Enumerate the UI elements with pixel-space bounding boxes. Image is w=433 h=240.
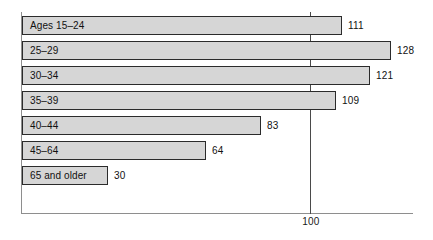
- bar-row: Ages 15–24111: [22, 16, 430, 35]
- bar-value-label: 111: [348, 16, 364, 35]
- bar-category-label: Ages 15–24: [30, 16, 84, 35]
- bar-value-label: 121: [376, 66, 393, 85]
- bar-row: 25–29128: [22, 41, 430, 60]
- bar-row: 65 and older30: [22, 166, 430, 185]
- bar-category-label: 25–29: [30, 41, 58, 60]
- bar-row: 30–34121: [22, 66, 430, 85]
- bar-value-label: 128: [397, 41, 414, 60]
- bar: [22, 41, 391, 60]
- bar-category-label: 45–64: [30, 141, 58, 160]
- bar-category-label: 30–34: [30, 66, 58, 85]
- value-axis-line: [21, 213, 413, 214]
- bar-value-label: 83: [267, 116, 279, 135]
- plot-area: 100 Ages 15–2411125–2912830–3412135–3910…: [0, 0, 433, 240]
- bar: [22, 91, 336, 110]
- bar-category-label: 40–44: [30, 116, 58, 135]
- bar-chart: 100 Ages 15–2411125–2912830–3412135–3910…: [0, 0, 433, 240]
- bar-value-label: 30: [114, 166, 126, 185]
- bar-value-label: 64: [212, 141, 224, 160]
- bar-row: 35–39109: [22, 91, 430, 110]
- bar-category-label: 35–39: [30, 91, 58, 110]
- reference-line-label: 100: [296, 216, 326, 227]
- bar: [22, 66, 370, 85]
- bar-value-label: 109: [342, 91, 359, 110]
- bar-category-label: 65 and older: [30, 166, 87, 185]
- bar-row: 45–6464: [22, 141, 430, 160]
- bar-row: 40–4483: [22, 116, 430, 135]
